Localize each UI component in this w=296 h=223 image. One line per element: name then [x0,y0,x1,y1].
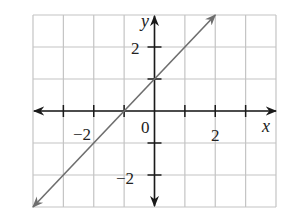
x-tick-label-2: 2 [211,126,220,145]
y-tick-label-neg2: −2 [116,169,134,188]
y-axis-label: y [139,11,149,31]
x-tick-label-neg2: −2 [73,125,91,144]
origin-label: 0 [141,118,150,137]
y-tick-label-2: 2 [131,39,140,58]
x-axis-label: x [261,116,270,136]
coordinate-plane: y x 0 −2 2 2 −2 [0,0,296,223]
